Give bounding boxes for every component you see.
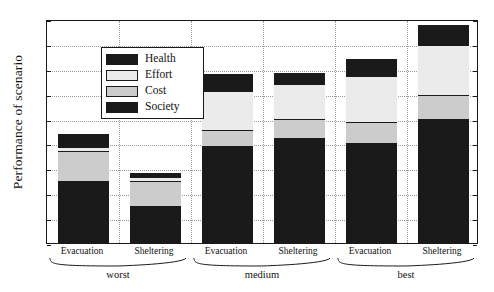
- bar-segment-society: [274, 138, 325, 243]
- legend-item: Effort: [106, 67, 198, 83]
- group-brace: [49, 258, 187, 267]
- y-axis-title: Performance of scenario: [10, 7, 26, 237]
- x-tick-label: Sheltering: [134, 246, 173, 256]
- y-tick-mark: [473, 96, 477, 97]
- grid-line: [47, 195, 477, 196]
- legend-swatch-effort: [106, 70, 138, 81]
- bar-segment-effort: [346, 76, 397, 121]
- legend-swatch-health: [106, 54, 138, 65]
- legend-item: Society: [106, 99, 198, 115]
- y-tick-mark: [47, 71, 51, 72]
- vertical-grid-line: [335, 21, 336, 243]
- bar-6: [418, 25, 469, 243]
- group-brace: [193, 258, 331, 267]
- bar-5: [346, 59, 397, 243]
- vertical-grid-line: [263, 21, 264, 243]
- bar-segment-society: [130, 206, 181, 243]
- bar-segment-health: [130, 173, 181, 177]
- bar-segment-cost: [130, 181, 181, 206]
- group-label-medium: medium: [245, 269, 279, 280]
- vertical-grid-line: [407, 21, 408, 243]
- grid-line: [47, 145, 477, 146]
- y-tick-mark: [473, 245, 477, 246]
- x-tick-label: Evacuation: [61, 246, 104, 256]
- legend-label-health: Health: [145, 53, 176, 65]
- y-tick-mark: [47, 121, 51, 122]
- plot-area: Health Effort Cost Society: [46, 20, 478, 244]
- grid-line: [47, 170, 477, 171]
- bar-segment-cost: [274, 119, 325, 138]
- bar-segment-effort: [58, 147, 109, 151]
- y-tick-mark: [473, 195, 477, 196]
- y-tick-mark: [473, 46, 477, 47]
- bar-segment-society: [418, 119, 469, 243]
- group-label-worst: worst: [106, 269, 129, 280]
- bar-segment-cost: [346, 122, 397, 144]
- y-tick-mark: [47, 170, 51, 171]
- bar-segment-health: [418, 25, 469, 45]
- grid-line: [47, 220, 477, 221]
- legend-swatch-society: [106, 102, 138, 113]
- bar-segment-society: [202, 146, 253, 243]
- stacked-bar-chart-figure: Performance of scenario 00.10.20.30.40.5…: [0, 0, 494, 292]
- legend-label-cost: Cost: [145, 85, 166, 97]
- legend-label-society: Society: [145, 101, 180, 113]
- bar-segment-society: [346, 143, 397, 243]
- group-label-best: best: [398, 269, 415, 280]
- y-tick-mark: [47, 46, 51, 47]
- bar-segment-cost: [58, 151, 109, 181]
- bar-1: [58, 138, 109, 243]
- y-tick-mark: [47, 96, 51, 97]
- bar-segment-health: [202, 74, 253, 91]
- y-tick-mark: [473, 170, 477, 171]
- legend-item: Health: [106, 51, 198, 67]
- y-tick-mark: [473, 121, 477, 122]
- bar-4: [274, 73, 325, 243]
- bar-segment-health: [274, 73, 325, 84]
- y-tick-mark: [473, 71, 477, 72]
- bar-segment-effort: [274, 84, 325, 119]
- y-tick-mark: [47, 245, 51, 246]
- bar-segment-health: [346, 59, 397, 76]
- bar-2: [130, 173, 181, 243]
- legend-item: Cost: [106, 83, 198, 99]
- grid-line: [47, 121, 477, 122]
- bar-segment-society: [58, 181, 109, 243]
- x-tick-label: Sheltering: [422, 246, 461, 256]
- x-tick-label: Evacuation: [205, 246, 248, 256]
- bar-segment-health: [58, 134, 109, 147]
- y-tick-mark: [473, 145, 477, 146]
- bar-segment-cost: [202, 130, 253, 146]
- bar-segment-cost: [418, 95, 469, 119]
- y-tick-mark: [47, 21, 51, 22]
- bar-segment-effort: [418, 45, 469, 95]
- bar-segment-effort: [202, 91, 253, 130]
- x-tick-label: Evacuation: [349, 246, 392, 256]
- y-tick-mark: [473, 220, 477, 221]
- bar-3: [202, 74, 253, 243]
- group-brace: [337, 258, 475, 267]
- chart-legend: Health Effort Cost Society: [101, 47, 204, 119]
- legend-swatch-cost: [106, 86, 138, 97]
- y-tick-mark: [47, 220, 51, 221]
- x-tick-label: Sheltering: [278, 246, 317, 256]
- y-tick-mark: [47, 145, 51, 146]
- y-tick-mark: [473, 21, 477, 22]
- y-tick-mark: [47, 195, 51, 196]
- bar-segment-effort: [130, 177, 181, 181]
- legend-label-effort: Effort: [145, 69, 172, 81]
